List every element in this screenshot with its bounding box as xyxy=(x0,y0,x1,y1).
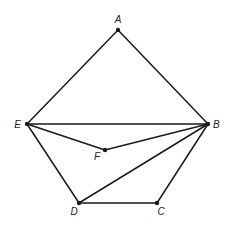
labels-group: ABCDEF xyxy=(14,14,220,217)
point-e-dot xyxy=(25,122,29,126)
segment-ef xyxy=(27,124,105,150)
segment-ed xyxy=(27,124,79,203)
segment-cb xyxy=(157,124,208,203)
segment-db xyxy=(79,124,208,203)
point-c-label: C xyxy=(157,206,165,217)
point-d-dot xyxy=(77,201,81,205)
segments-group xyxy=(27,30,208,203)
point-f-dot xyxy=(103,148,107,152)
point-e-label: E xyxy=(14,119,21,130)
point-d-label: D xyxy=(70,206,77,217)
segment-fb xyxy=(105,124,208,150)
point-a-label: A xyxy=(114,14,122,25)
geometry-diagram: ABCDEF xyxy=(0,0,240,237)
segment-ae xyxy=(27,30,118,124)
point-c-dot xyxy=(155,201,159,205)
point-f-label: F xyxy=(94,151,101,162)
point-a-dot xyxy=(116,28,120,32)
segment-ab xyxy=(118,30,208,124)
point-b-label: B xyxy=(213,119,220,130)
point-b-dot xyxy=(206,122,210,126)
